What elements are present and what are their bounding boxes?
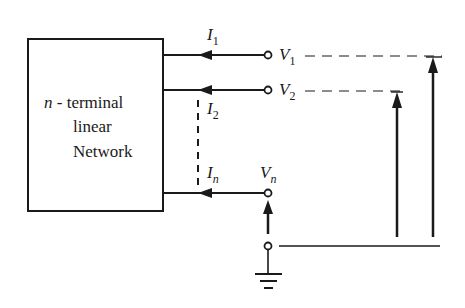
voltage-n-label: Vn: [260, 163, 276, 186]
voltage-1-arrowhead: [428, 57, 438, 73]
terminal-2-node: [265, 87, 272, 94]
reference-terminal-node: [265, 243, 272, 250]
current-2-label: I2: [206, 99, 219, 122]
voltage-2-arrowhead: [392, 92, 402, 108]
voltage-2-label: V2: [279, 80, 295, 103]
current-1-label: I1: [206, 25, 219, 48]
network-label-line3: Network: [73, 142, 133, 161]
terminal-1-node: [265, 52, 272, 59]
current-2-arrowhead: [198, 85, 212, 95]
voltage-n-arrowhead: [263, 200, 273, 214]
current-n-label: In: [206, 163, 219, 186]
current-1-arrowhead: [198, 50, 212, 60]
network-label-line1: n - terminal: [44, 93, 124, 112]
voltage-1-label: V1: [279, 45, 295, 68]
n-terminal-network-diagram: n - terminal linear Network I1 V1 I2 V2 …: [0, 0, 465, 308]
network-label-line2: linear: [73, 117, 112, 136]
ground-icon: [255, 274, 282, 288]
current-n-arrowhead: [198, 188, 212, 198]
terminal-n-node: [265, 190, 272, 197]
